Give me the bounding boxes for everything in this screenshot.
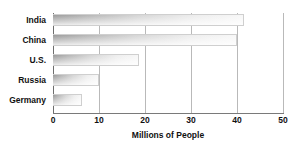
- x-axis-title: Millions of People: [53, 131, 283, 140]
- gridline-20: [145, 13, 146, 113]
- bar-germany: [53, 94, 82, 106]
- category-label-russia: Russia: [0, 76, 46, 85]
- category-label-germany: Germany: [0, 96, 46, 105]
- x-axis-line: [53, 113, 284, 114]
- bar-chart: India China U.S. Russia Germany 0 10 20 …: [0, 0, 301, 150]
- x-tick-50: 50: [268, 116, 298, 125]
- x-axis-ticks: 0 10 20 30 40 50: [0, 116, 301, 128]
- category-label-china: China: [0, 36, 46, 45]
- x-tick-20: 20: [130, 116, 160, 125]
- x-tick-10: 10: [84, 116, 114, 125]
- plot-area: [53, 13, 283, 113]
- bar-india: [53, 14, 244, 26]
- gridline-40: [237, 13, 238, 113]
- gridline-30: [191, 13, 192, 113]
- x-tick-0: 0: [38, 116, 68, 125]
- bar-russia: [53, 74, 99, 86]
- bar-china: [53, 34, 237, 46]
- category-axis: India China U.S. Russia Germany: [0, 13, 50, 113]
- category-label-india: India: [0, 16, 46, 25]
- x-tick-30: 30: [176, 116, 206, 125]
- bar-us: [53, 54, 139, 66]
- x-tick-40: 40: [222, 116, 252, 125]
- category-label-us: U.S.: [0, 56, 46, 65]
- gridline-50: [283, 13, 284, 113]
